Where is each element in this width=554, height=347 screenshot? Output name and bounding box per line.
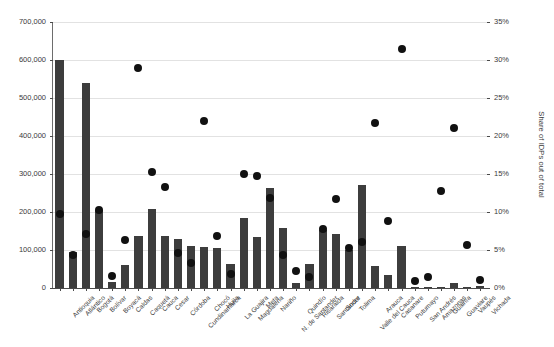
y-axis-right-tickmark bbox=[487, 98, 490, 99]
data-point-dot bbox=[253, 172, 261, 180]
x-axis-tickmark bbox=[480, 288, 481, 291]
bar bbox=[345, 250, 353, 288]
x-axis-tickmark bbox=[204, 288, 205, 291]
bar bbox=[121, 265, 129, 288]
y-axis-left-tickmark bbox=[50, 174, 53, 175]
y-axis-left-tickmark bbox=[50, 136, 53, 137]
data-point-dot bbox=[82, 230, 90, 238]
y-axis-right-tickmark bbox=[487, 250, 490, 251]
data-point-dot bbox=[437, 187, 445, 195]
y-axis-left-tick-label: 200,000 bbox=[0, 207, 46, 216]
data-point-dot bbox=[292, 267, 300, 275]
bar bbox=[384, 275, 392, 288]
y-axis-right-title: Share of IDPs out of total bbox=[537, 111, 546, 197]
y-axis-left-tickmark bbox=[50, 60, 53, 61]
x-axis-tickmark bbox=[362, 288, 363, 291]
x-axis-tickmark bbox=[415, 288, 416, 291]
y-axis-left-tick-label: 600,000 bbox=[0, 55, 46, 64]
x-axis-tickmark bbox=[86, 288, 87, 291]
bar bbox=[253, 237, 261, 288]
x-axis-tick-label: Córdoba bbox=[188, 294, 211, 317]
x-axis-tickmark bbox=[99, 288, 100, 291]
bar bbox=[319, 230, 327, 288]
y-axis-left-tick-label: 500,000 bbox=[0, 93, 46, 102]
x-axis-tickmark bbox=[231, 288, 232, 291]
data-point-dot bbox=[424, 273, 432, 281]
x-axis-tickmark bbox=[283, 288, 284, 291]
x-axis-tickmark bbox=[138, 288, 139, 291]
data-point-dot bbox=[69, 251, 77, 259]
data-point-dot bbox=[200, 117, 208, 125]
x-axis-tickmark bbox=[467, 288, 468, 291]
x-axis-tickmark bbox=[191, 288, 192, 291]
x-axis-tickmark bbox=[296, 288, 297, 291]
data-point-dot bbox=[227, 270, 235, 278]
bar bbox=[95, 210, 103, 288]
bar bbox=[82, 83, 90, 288]
x-axis-tick-label: Tolima bbox=[357, 294, 375, 312]
bar bbox=[200, 247, 208, 288]
bar bbox=[358, 185, 366, 288]
gridline bbox=[53, 98, 487, 99]
y-axis-left-tick-label: 0 bbox=[0, 283, 46, 292]
chart-container: Total IDPs Share of IDPs out of total 00… bbox=[0, 0, 554, 347]
y-axis-right-tick-label: 30% bbox=[494, 55, 530, 64]
y-axis-right-tick-label: 5% bbox=[494, 245, 530, 254]
y-axis-left-tick-label: 100,000 bbox=[0, 245, 46, 254]
data-point-dot bbox=[450, 124, 458, 132]
data-point-dot bbox=[463, 241, 471, 249]
y-axis-left-tick-label: 300,000 bbox=[0, 169, 46, 178]
bar bbox=[371, 266, 379, 288]
data-point-dot bbox=[56, 210, 64, 218]
data-point-dot bbox=[371, 119, 379, 127]
y-axis-left-tickmark bbox=[50, 22, 53, 23]
y-axis-right-tickmark bbox=[487, 22, 490, 23]
bar bbox=[55, 60, 63, 288]
y-axis-right-tick-label: 0% bbox=[494, 283, 530, 292]
x-axis-tickmark bbox=[270, 288, 271, 291]
data-point-dot bbox=[161, 183, 169, 191]
x-axis-tickmark bbox=[454, 288, 455, 291]
x-axis-tickmark bbox=[402, 288, 403, 291]
bar bbox=[266, 188, 274, 288]
x-axis-tickmark bbox=[388, 288, 389, 291]
gridline bbox=[53, 136, 487, 137]
bar bbox=[134, 236, 142, 288]
bar bbox=[213, 248, 221, 288]
y-axis-right-tickmark bbox=[487, 136, 490, 137]
data-point-dot bbox=[187, 259, 195, 267]
gridline bbox=[53, 174, 487, 175]
y-axis-right-tick-label: 25% bbox=[494, 93, 530, 102]
y-axis-right-tick-label: 20% bbox=[494, 131, 530, 140]
data-point-dot bbox=[240, 170, 248, 178]
y-axis-right-tick-label: 35% bbox=[494, 17, 530, 26]
data-point-dot bbox=[384, 217, 392, 225]
y-axis-right-tickmark bbox=[487, 212, 490, 213]
data-point-dot bbox=[411, 277, 419, 285]
y-axis-left-tick-label: 400,000 bbox=[0, 131, 46, 140]
x-axis-tickmark bbox=[112, 288, 113, 291]
x-axis-tickmark bbox=[375, 288, 376, 291]
y-axis-right-tick-label: 15% bbox=[494, 169, 530, 178]
x-axis-tickmark bbox=[244, 288, 245, 291]
data-point-dot bbox=[279, 251, 287, 259]
data-point-dot bbox=[121, 236, 129, 244]
bar bbox=[332, 234, 340, 288]
data-point-dot bbox=[476, 276, 484, 284]
y-axis-left-tick-label: 700,000 bbox=[0, 17, 46, 26]
plot-area bbox=[53, 22, 487, 288]
x-axis-tickmark bbox=[125, 288, 126, 291]
y-axis-left-tickmark bbox=[50, 98, 53, 99]
x-axis-tickmark bbox=[152, 288, 153, 291]
y-axis-right-tickmark bbox=[487, 288, 490, 289]
gridline bbox=[53, 60, 487, 61]
x-axis-tickmark bbox=[217, 288, 218, 291]
x-axis-tickmark bbox=[336, 288, 337, 291]
data-point-dot bbox=[213, 232, 221, 240]
data-point-dot bbox=[398, 45, 406, 53]
y-axis-right-tick-label: 10% bbox=[494, 207, 530, 216]
bar bbox=[240, 218, 248, 288]
x-axis-tickmark bbox=[441, 288, 442, 291]
data-point-dot bbox=[148, 168, 156, 176]
gridline bbox=[53, 22, 487, 23]
